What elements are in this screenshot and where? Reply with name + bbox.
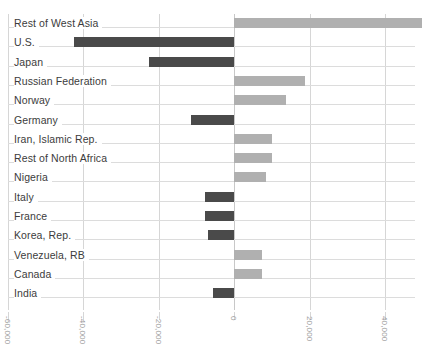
category-label: Rest of West Asia	[14, 17, 102, 29]
bar-row: Rest of West Asia	[0, 14, 434, 33]
x-axis: -60,000-40,000-20,000020,00040,000	[0, 310, 434, 351]
bar-row: U.S.	[0, 33, 434, 52]
bar-row: Canada	[0, 265, 434, 284]
category-label: Nigeria	[14, 171, 52, 183]
bar[interactable]	[234, 95, 286, 105]
row-leader-line	[8, 104, 415, 105]
bar[interactable]	[234, 269, 262, 279]
bar[interactable]	[74, 37, 234, 47]
bar[interactable]	[205, 192, 234, 202]
bar-row: Russian Federation	[0, 72, 434, 91]
category-label: Germany	[14, 114, 62, 126]
bar-row: France	[0, 207, 434, 226]
bar-row: Korea, Rep.	[0, 226, 434, 245]
bar[interactable]	[234, 134, 272, 144]
bar[interactable]	[205, 211, 234, 221]
bar-row: Nigeria	[0, 168, 434, 187]
x-axis-tick-label: -40,000	[78, 316, 87, 344]
bar-row: Germany	[0, 111, 434, 130]
x-axis-tick-label: -20,000	[154, 316, 163, 344]
bar-row: Italy	[0, 188, 434, 207]
horizontal-bar-chart: Rest of West AsiaU.S.JapanRussian Federa…	[0, 0, 434, 351]
category-label: Norway	[14, 94, 54, 106]
bar-row: Rest of North Africa	[0, 149, 434, 168]
x-axis-tick-label: 0	[229, 316, 238, 321]
bar[interactable]	[149, 57, 235, 67]
bar[interactable]	[213, 288, 235, 298]
category-label: Canada	[14, 268, 55, 280]
category-label: Iran, Islamic Rep.	[14, 133, 102, 145]
x-axis-tick-label: 20,000	[305, 316, 314, 341]
bar-row: Iran, Islamic Rep.	[0, 130, 434, 149]
category-label: France	[14, 210, 51, 222]
bar[interactable]	[191, 115, 235, 125]
category-label: Italy	[14, 191, 38, 203]
category-label: Korea, Rep.	[14, 229, 75, 241]
category-label: Japan	[14, 56, 47, 68]
category-label: Venezuela, RB	[14, 249, 89, 261]
bar[interactable]	[234, 172, 266, 182]
x-axis-tick-label: 40,000	[380, 316, 389, 341]
bar-row: Venezuela, RB	[0, 246, 434, 265]
row-leader-line	[8, 278, 415, 279]
bar[interactable]	[234, 153, 272, 163]
bar-row: Norway	[0, 91, 434, 110]
category-label: India	[14, 287, 41, 299]
bar[interactable]	[234, 76, 304, 86]
category-label: U.S.	[14, 36, 39, 48]
bar[interactable]	[208, 230, 234, 240]
plot-area: Rest of West AsiaU.S.JapanRussian Federa…	[0, 0, 434, 310]
bar[interactable]	[234, 250, 262, 260]
row-leader-line	[8, 297, 415, 298]
category-label: Rest of North Africa	[14, 152, 111, 164]
bar-row: Japan	[0, 53, 434, 72]
category-label: Russian Federation	[14, 75, 111, 87]
x-axis-tick-label: -60,000	[3, 316, 12, 344]
bar[interactable]	[234, 18, 422, 28]
bar-row: India	[0, 284, 434, 303]
row-leader-line	[8, 181, 415, 182]
